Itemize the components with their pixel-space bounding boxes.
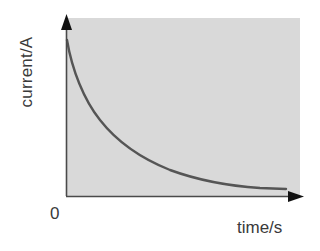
origin-label: 0 (50, 204, 59, 224)
plot-area (66, 18, 300, 196)
chart-plot (0, 0, 320, 251)
x-axis-label: time/s (237, 218, 282, 238)
y-axis-label: current/A (17, 37, 37, 108)
